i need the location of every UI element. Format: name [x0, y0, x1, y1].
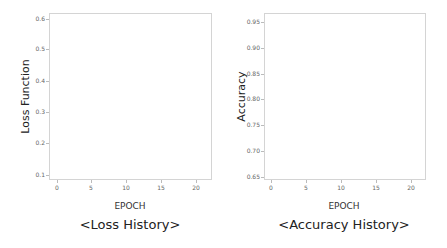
accuracy-xtick-0: 0	[263, 185, 279, 191]
accuracy-chart-caption: <Accuracy History>	[274, 217, 414, 232]
accuracy-xtick-mark	[271, 180, 272, 183]
accuracy-ytick-mark	[261, 48, 264, 49]
accuracy-ytick-0.65: 0.65	[240, 174, 260, 180]
accuracy-ytick-0.90: 0.90	[240, 45, 260, 51]
accuracy-xtick-5: 5	[298, 185, 314, 191]
accuracy-plot-area	[264, 13, 426, 180]
accuracy-xtick-15: 15	[368, 185, 384, 191]
accuracy-y-axis-label: Accuracy	[235, 67, 248, 127]
accuracy-history-chart: 0.95 0.90 0.85 0.80 0.75 0.70 0.65 0 5 1…	[0, 0, 447, 248]
accuracy-xtick-20: 20	[403, 185, 419, 191]
accuracy-ytick-mark	[261, 151, 264, 152]
accuracy-ytick-mark	[261, 22, 264, 23]
accuracy-xtick-mark	[341, 180, 342, 183]
accuracy-ytick-mark	[261, 125, 264, 126]
accuracy-xtick-mark	[411, 180, 412, 183]
accuracy-ytick-mark	[261, 99, 264, 100]
accuracy-xtick-mark	[306, 180, 307, 183]
accuracy-xtick-10: 10	[333, 185, 349, 191]
accuracy-ytick-0.95: 0.95	[240, 19, 260, 25]
accuracy-ytick-mark	[261, 74, 264, 75]
accuracy-ytick-0.70: 0.70	[240, 148, 260, 154]
accuracy-ytick-mark	[261, 177, 264, 178]
accuracy-x-axis-label: EPOCH	[314, 201, 374, 211]
accuracy-xtick-mark	[376, 180, 377, 183]
